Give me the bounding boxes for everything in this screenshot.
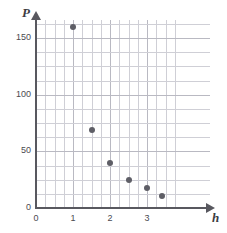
data-point [159, 193, 165, 199]
data-point [107, 160, 113, 166]
y-tick-label-50: 50 [5, 145, 31, 155]
gridline-horizontal [36, 194, 210, 195]
gridline-horizontal [36, 109, 210, 110]
y-tick-label-100: 100 [5, 89, 31, 99]
y-axis-title: P [22, 5, 30, 21]
x-tick-label-2: 2 [100, 213, 120, 223]
gridline-horizontal [36, 66, 210, 67]
data-point [70, 24, 76, 30]
x-tick-label-1: 1 [63, 213, 83, 223]
data-point [144, 185, 150, 191]
y-tick-label-0: 0 [5, 202, 31, 212]
scatter-plot-figure: P h 050100150 0123 [0, 0, 227, 233]
data-point [126, 177, 132, 183]
gridline-horizontal [36, 52, 210, 53]
gridline-horizontal [36, 151, 210, 152]
plot-area [36, 20, 210, 208]
gridline-horizontal [36, 81, 210, 82]
y-axis-arrowhead [31, 11, 41, 20]
x-tick-label-3: 3 [137, 213, 157, 223]
x-tick-label-0: 0 [26, 213, 46, 223]
y-tick-label-150: 150 [5, 32, 31, 42]
y-axis-line [35, 18, 37, 209]
gridline-horizontal [36, 38, 210, 39]
gridline-horizontal [36, 24, 210, 25]
data-point [89, 127, 95, 133]
gridline-horizontal [36, 137, 210, 138]
gridline-horizontal [36, 180, 210, 181]
x-axis-line [35, 207, 211, 209]
gridline-horizontal [36, 166, 210, 167]
x-axis-title: h [212, 210, 219, 226]
gridline-horizontal [36, 123, 210, 124]
gridline-horizontal [36, 95, 210, 96]
